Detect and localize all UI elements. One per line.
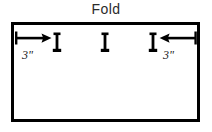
diagram-canvas: Fold 3" 3" [0, 0, 212, 132]
diagram-drawing [0, 0, 212, 132]
dimension-label-right: 3" [163, 48, 174, 63]
dimension-label-left: 3" [22, 48, 33, 63]
